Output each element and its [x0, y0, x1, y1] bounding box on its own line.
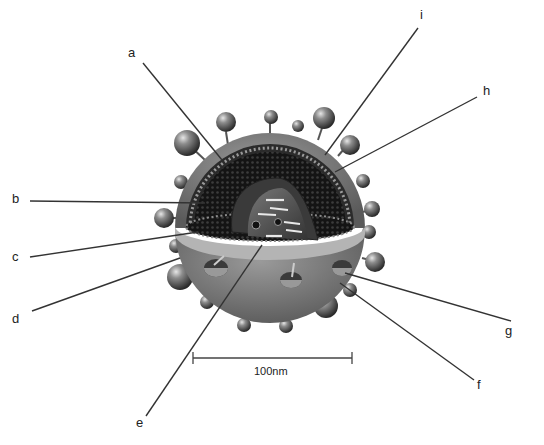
label-d: d	[12, 312, 19, 325]
leader-line-h	[335, 97, 477, 172]
label-i: i	[420, 8, 423, 21]
leader-line-d	[32, 258, 180, 311]
reverse-transcriptase	[252, 221, 260, 229]
scale-bar	[193, 352, 352, 364]
leader-line-g	[345, 273, 511, 321]
label-f: f	[477, 378, 481, 391]
label-c: c	[12, 250, 19, 263]
label-a: a	[128, 46, 135, 59]
label-h: h	[483, 84, 490, 97]
label-e: e	[136, 416, 143, 429]
scale-bar-label: 100nm	[254, 365, 288, 377]
leader-line-f	[340, 283, 474, 380]
label-g: g	[505, 324, 512, 337]
virus-diagram	[0, 0, 544, 445]
leader-line-b	[30, 201, 205, 203]
label-b: b	[12, 192, 19, 205]
